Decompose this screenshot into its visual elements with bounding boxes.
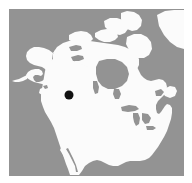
north-america-map-graphic <box>9 9 184 176</box>
map-canvas <box>9 9 184 176</box>
locator-map-figure <box>0 0 192 183</box>
location-marker[interactable] <box>65 91 74 100</box>
